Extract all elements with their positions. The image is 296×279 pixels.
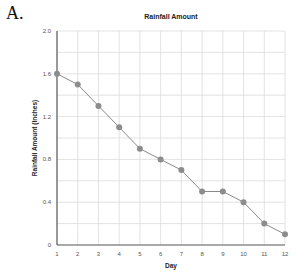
x-tick-label: 6 xyxy=(159,251,163,257)
y-tick-label: 0.8 xyxy=(43,156,52,162)
data-point-marker xyxy=(137,146,143,152)
y-axis-label: Rainfall Amount (Inches) xyxy=(31,100,39,176)
x-tick-label: 5 xyxy=(138,251,142,257)
x-tick-label: 9 xyxy=(221,251,225,257)
grid-lines xyxy=(57,31,285,245)
y-tick-label: 0.4 xyxy=(43,199,52,205)
y-tick-label: 2.0 xyxy=(43,28,52,34)
data-point-marker xyxy=(178,167,184,173)
data-point-marker xyxy=(220,189,226,195)
data-point-marker xyxy=(199,189,205,195)
series-line xyxy=(57,74,285,235)
data-point-marker xyxy=(282,231,288,237)
data-point-marker xyxy=(116,124,122,130)
x-tick-label: 11 xyxy=(261,251,268,257)
x-tick-label: 7 xyxy=(180,251,184,257)
data-series xyxy=(54,71,288,238)
x-tick-label: 10 xyxy=(240,251,247,257)
x-tick-label: 4 xyxy=(118,251,122,257)
chart-title: Rainfall Amount xyxy=(144,13,198,20)
x-tick-label: 12 xyxy=(282,251,289,257)
x-axis-label: Day xyxy=(165,262,177,270)
data-point-marker xyxy=(95,103,101,109)
data-point-marker xyxy=(75,82,81,88)
x-tick-label: 3 xyxy=(97,251,101,257)
data-point-marker xyxy=(261,221,267,227)
x-tick-label: 1 xyxy=(55,251,59,257)
y-tick-label: 1.6 xyxy=(43,71,52,77)
x-tick-label: 8 xyxy=(200,251,204,257)
x-tick-label: 2 xyxy=(76,251,80,257)
x-tick-labels: 123456789101112 xyxy=(55,251,289,257)
line-chart: Rainfall Amount 00.40.81.21.62.0 1234567… xyxy=(0,0,296,279)
data-point-marker xyxy=(158,156,164,162)
y-tick-label: 0 xyxy=(48,242,52,248)
y-tick-labels: 00.40.81.21.62.0 xyxy=(43,28,52,248)
data-point-marker xyxy=(241,199,247,205)
data-point-marker xyxy=(54,71,60,77)
y-tick-label: 1.2 xyxy=(43,114,52,120)
